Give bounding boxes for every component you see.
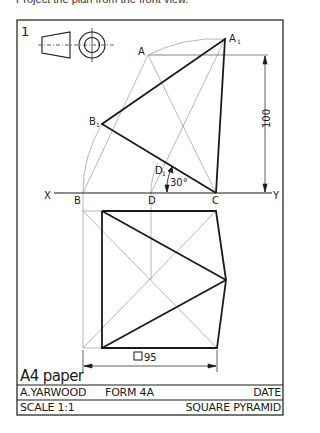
form-text: FORM 4A [105, 386, 154, 399]
label-Y: Y [272, 190, 280, 201]
drawing-title: SQUARE PYRAMID [185, 401, 281, 414]
height-dimension-text: 100 [261, 109, 272, 128]
label-A: A [138, 46, 145, 57]
square-symbol-icon [134, 352, 142, 360]
projection-symbol-icon [38, 28, 114, 62]
label-A1: A [229, 33, 236, 44]
svg-text:1: 1 [96, 121, 100, 128]
paper-size-label: A4 paper [20, 367, 83, 385]
label-B: B [74, 195, 81, 206]
sheet-number: 1 [21, 24, 29, 39]
label-C: C [212, 195, 219, 206]
author-text: A.YARWOOD [20, 386, 86, 399]
scale-text: SCALE 1:1 [20, 401, 75, 414]
angle-dimension-text: 30° [170, 177, 188, 188]
label-D: D [148, 195, 156, 206]
base-dimension-text: 95 [144, 352, 157, 363]
label-B1: B [89, 116, 96, 127]
svg-text:1: 1 [162, 170, 166, 177]
label-X: X [44, 190, 51, 201]
date-label: DATE [253, 386, 281, 399]
plan-view-outline [102, 211, 226, 348]
svg-text:1: 1 [237, 38, 241, 45]
